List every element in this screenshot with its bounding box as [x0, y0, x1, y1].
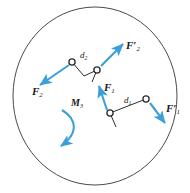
force-2-subscript: 2 [39, 91, 42, 98]
pin-joint-upper-left [69, 59, 75, 65]
force-1-label: F1 [104, 82, 115, 93]
diagram-canvas [0, 0, 190, 193]
force-2-label: F2 [32, 86, 43, 97]
moment-3-symbol: M [71, 97, 80, 108]
force-2-prime-label: F′2 [126, 40, 140, 51]
force-1-subscript: 1 [111, 87, 114, 94]
pin-joint-lower-left [107, 110, 113, 116]
pin-joint-lower-right [143, 96, 149, 102]
pin-joint-upper-right [94, 67, 100, 73]
distance-2-label: d2 [80, 51, 87, 60]
moment-3-subscript: 3 [80, 102, 83, 109]
force-2-prime-subscript: 2 [136, 45, 139, 52]
force-1-prime-label: F′1 [166, 103, 180, 114]
distance-1-symbol: d [124, 95, 129, 105]
distance-1-label: d1 [124, 96, 131, 105]
distance-1-subscript: 1 [129, 100, 132, 106]
force-couple-diagram: F2 F′2 F1 F′1 d2 d1 M3 [0, 0, 190, 193]
force-1-prime-subscript: 1 [176, 108, 179, 115]
distance-2-symbol: d [80, 50, 85, 60]
moment-3-label: M3 [71, 98, 83, 108]
distance-2-subscript: 2 [85, 55, 88, 61]
